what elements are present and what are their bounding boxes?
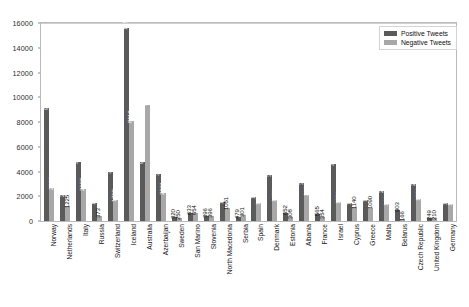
x-axis-label: Iceland xyxy=(131,224,138,245)
bar-value-label-negative: 2291 xyxy=(159,182,165,195)
bar-negative xyxy=(384,204,389,221)
bar-group: 45901550 xyxy=(331,23,341,221)
bar-value-label-negative: 1673 xyxy=(271,189,277,202)
bar-negative xyxy=(304,195,309,221)
bar-value-label-negative: 210 xyxy=(431,211,437,221)
bar-value-label-negative: 373 xyxy=(95,209,101,219)
y-tick-label: 8000 xyxy=(17,118,33,127)
y-tick-label: 0 xyxy=(29,217,33,226)
bar-group: 1484373 xyxy=(92,23,102,221)
legend-swatch-positive-icon xyxy=(384,31,397,36)
y-tick-label: 14000 xyxy=(13,43,34,52)
top-gridline xyxy=(41,23,456,24)
bar-negative xyxy=(161,193,166,221)
bar-value-label-positive: 4590 xyxy=(330,153,336,166)
bar-group: 14371351 xyxy=(443,23,453,221)
bar-value-label-negative: 654 xyxy=(191,205,197,215)
x-axis-label: Czech Republic xyxy=(418,224,425,270)
bar-value-label-negative: 1404 xyxy=(383,192,389,205)
bar-negative xyxy=(256,203,261,221)
bar-group: 91132669 xyxy=(44,23,54,221)
bar-group: 903166 xyxy=(395,23,405,221)
y-tick-label: 12000 xyxy=(13,68,34,77)
x-axis: NorwayNetherlandsItalyRussiaSwitzerlandI… xyxy=(41,224,456,306)
bar-group: 652308 xyxy=(283,23,293,221)
bar-negative xyxy=(272,200,277,221)
legend-label-positive: Positive Tweets xyxy=(401,30,448,37)
x-axis-label: Denmark xyxy=(274,224,281,251)
bar-value-label-negative: 301 xyxy=(239,207,245,217)
bar-negative xyxy=(416,199,421,221)
x-axis-label: United Kingdom xyxy=(434,224,441,271)
bar-value-label-positive: 9412 xyxy=(138,151,144,164)
bar-value-label-positive: 9113 xyxy=(42,98,48,111)
bar-group: 21351225 xyxy=(60,23,70,221)
bar-negative xyxy=(49,188,54,221)
bar-value-label-positive: 2970 xyxy=(410,173,416,186)
x-axis-label: Sweden xyxy=(179,224,186,248)
x-axis-label: Germany xyxy=(450,224,457,251)
bar-group: 565354 xyxy=(315,23,325,221)
x-axis-label: Israel xyxy=(338,224,345,240)
bar-group: 320250 xyxy=(172,23,182,221)
bar-value-label-positive: 4786 xyxy=(74,151,80,164)
legend-item-negative: Negative Tweets xyxy=(384,39,451,46)
bar-value-label-negative: 308 xyxy=(287,209,293,219)
bar-negative xyxy=(113,200,118,221)
x-axis-label: Malta xyxy=(386,224,393,240)
bar-value-label-negative: 1700 xyxy=(111,189,117,202)
plot-area: 9113266921351225478626021484373394617001… xyxy=(40,22,457,222)
legend-swatch-negative-icon xyxy=(384,40,397,45)
legend-label-negative: Negative Tweets xyxy=(401,39,451,46)
bar-value-label-negative: 1351 xyxy=(447,193,453,206)
bar-group: 15031051 xyxy=(220,23,230,221)
x-axis-label: Slovenia xyxy=(211,224,218,249)
x-axis-label: Russia xyxy=(99,224,106,244)
bar-value-label-negative: 1090 xyxy=(367,196,373,209)
bar-value-label-positive: 1484 xyxy=(90,191,96,204)
bar-group: 155658112 xyxy=(124,23,134,221)
x-axis-label: Cyprus xyxy=(354,224,361,245)
y-axis: 0200040006000800010000120001400016000 xyxy=(0,22,38,222)
y-tick-label: 16000 xyxy=(13,19,34,28)
bar-group: 19441464 xyxy=(251,23,261,221)
x-axis-label: San Marino xyxy=(195,224,202,258)
bar-value-label-negative: 354 xyxy=(319,209,325,219)
bar-group: 633654 xyxy=(188,23,198,221)
bar-value-label-positive: 2399 xyxy=(378,180,384,193)
bar-group: 30982136 xyxy=(299,23,309,221)
x-axis-label: Albania xyxy=(306,224,313,246)
bar-negative xyxy=(145,105,150,221)
y-tick-label: 10000 xyxy=(13,93,34,102)
x-axis-label: Italy xyxy=(83,224,90,236)
bar-value-label-positive: 3794 xyxy=(154,163,160,176)
bar-value-label-positive: 3946 xyxy=(106,161,112,174)
bar-group: 249210 xyxy=(427,23,437,221)
bar-group: 29701772 xyxy=(411,23,421,221)
bar-value-label-negative: 1140 xyxy=(351,196,357,209)
legend: Positive Tweets Negative Tweets xyxy=(379,26,457,50)
bar-group: 37942291 xyxy=(156,23,166,221)
bar-value-label-negative: 1550 xyxy=(335,191,341,204)
bar-value-label-negative: 1051 xyxy=(223,197,229,210)
x-axis-label: Estonia xyxy=(290,224,297,246)
bar-value-label-negative: 2669 xyxy=(47,177,53,190)
bars-container: 9113266921351225478626021484373394617001… xyxy=(41,23,456,221)
bar-value-label-negative: 1772 xyxy=(415,188,421,201)
x-axis-label: North Macedonia xyxy=(227,224,234,274)
bar-group: 479301 xyxy=(236,23,246,221)
bar-value-label-negative: 2136 xyxy=(303,183,309,196)
bar-value-label-negative: 166 xyxy=(399,211,405,221)
bar-value-label-negative: 250 xyxy=(175,210,181,220)
y-tick-label: 4000 xyxy=(17,167,33,176)
x-axis-label: Netherlands xyxy=(67,224,74,260)
bar-negative xyxy=(81,189,86,221)
x-axis-label: Serbia xyxy=(243,224,250,243)
x-axis-label: Azerbaijan xyxy=(163,224,170,255)
bar-group: 17041090 xyxy=(363,23,373,221)
x-axis-label: Norway xyxy=(51,224,58,246)
bar-value-label-negative: 1464 xyxy=(255,192,261,205)
bar-negative xyxy=(336,202,341,221)
bar-group: 47862602 xyxy=(76,23,86,221)
bar-group: 23991404 xyxy=(379,23,389,221)
